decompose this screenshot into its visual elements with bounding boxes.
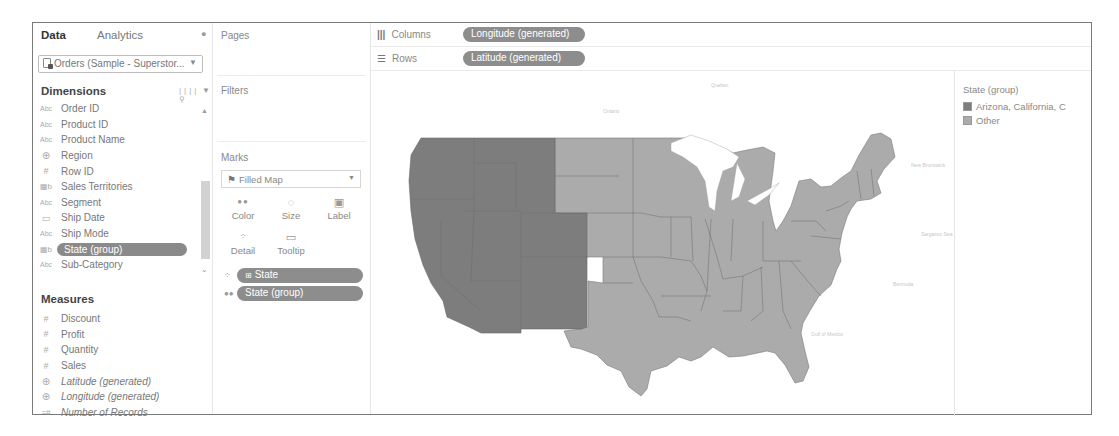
field-order-id[interactable]: AbcOrder ID — [33, 101, 201, 117]
chevron-down-icon: ▼ — [189, 58, 197, 67]
field-region[interactable]: ⊕Region — [33, 148, 201, 164]
dimensions-list: AbcOrder ID AbcProduct ID AbcProduct Nam… — [33, 101, 201, 273]
string-icon: Abc — [35, 105, 57, 112]
divider — [217, 75, 366, 76]
data-source-select[interactable]: Orders (Sample - Superstor... ▼ — [38, 55, 203, 73]
color-icon: ●● — [221, 194, 265, 210]
pages-card-title: Pages — [221, 30, 249, 41]
number-icon: # — [35, 166, 57, 176]
field-state-group[interactable]: ▦bState (group) — [33, 241, 201, 257]
calculated-number-icon: =# — [35, 408, 57, 417]
number-icon: # — [35, 329, 57, 339]
rows-shelf[interactable]: ☰Rows Latitude (generated) — [371, 47, 1091, 71]
us-filled-map[interactable]: Quebec Ontario New Brunswick Sargasso Se… — [371, 71, 955, 416]
columns-label: |||Columns — [377, 29, 431, 40]
field-quantity[interactable]: #Quantity — [33, 342, 201, 358]
field-ship-date[interactable]: ▭Ship Date — [33, 210, 201, 226]
basemap-label: Gulf of Mexico — [811, 331, 843, 337]
filled-map-icon: ⚑ — [227, 174, 236, 185]
globe-icon: ⊕ — [35, 150, 57, 161]
scroll-up-icon[interactable]: ▲ — [201, 107, 208, 114]
legend-item-group[interactable]: Arizona, California, C — [963, 101, 1066, 112]
state-detail-pill[interactable]: ⊞State — [237, 268, 363, 283]
mark-type-select[interactable]: ⚑Filled Map ▼ — [221, 170, 361, 188]
data-pane-tabs: Data Analytics ● — [33, 23, 213, 47]
tab-analytics[interactable]: Analytics — [97, 29, 143, 41]
tab-data[interactable]: Data — [41, 29, 66, 41]
color-legend: State (group) Arizona, California, C Oth… — [955, 71, 1091, 416]
string-icon: Abc — [35, 136, 57, 143]
data-source-label: Orders (Sample - Superstor... — [54, 58, 185, 69]
map-view[interactable]: Quebec Ontario New Brunswick Sargasso Se… — [371, 71, 955, 416]
dimensions-scrollbar[interactable] — [201, 181, 210, 259]
basemap-label: Quebec — [711, 82, 729, 88]
basemap-label: Ontario — [603, 108, 620, 114]
string-icon: Abc — [35, 199, 57, 206]
legend-title[interactable]: State (group) — [963, 84, 1018, 95]
field-product-id[interactable]: AbcProduct ID — [33, 117, 201, 133]
legend-swatch — [963, 116, 972, 125]
group-icon: ▦b — [35, 245, 57, 254]
columns-shelf[interactable]: |||Columns Longitude (generated) — [371, 23, 1091, 47]
field-number-of-records[interactable]: =#Number of Records — [33, 405, 201, 421]
plus-icon: ⊞ — [245, 271, 252, 280]
number-icon: # — [35, 361, 57, 371]
color-button[interactable]: ●●Color — [221, 194, 265, 228]
number-icon: # — [35, 314, 57, 324]
detail-button[interactable]: ⁘Detail — [221, 229, 265, 263]
tableau-workspace: Data Analytics ● Orders (Sample - Supers… — [32, 22, 1092, 415]
detail-encoding-icon: ⁘ — [224, 271, 231, 280]
color-encoding-icon: ●● — [224, 289, 234, 298]
columns-icon: ||| — [377, 29, 385, 40]
marks-card-title: Marks — [221, 152, 248, 163]
field-longitude-generated[interactable]: ⊕Longitude (generated) — [33, 389, 201, 405]
number-icon: # — [35, 345, 57, 355]
tooltip-icon: ▭ — [269, 229, 313, 245]
field-segment[interactable]: AbcSegment — [33, 195, 201, 211]
mark-type-label: Filled Map — [239, 174, 283, 185]
legend-swatch — [963, 102, 972, 111]
dimensions-menu-icon[interactable]: ▼ — [202, 86, 210, 95]
string-icon: Abc — [35, 230, 57, 237]
basemap-label: Sargasso Sea — [921, 231, 953, 237]
field-product-name[interactable]: AbcProduct Name — [33, 132, 201, 148]
field-ship-mode[interactable]: AbcShip Mode — [33, 226, 201, 242]
cards-pane: Pages Filters Marks ⚑Filled Map ▼ ●●Colo… — [213, 23, 371, 414]
string-icon: Abc — [35, 121, 57, 128]
globe-icon: ⊕ — [35, 391, 57, 402]
data-pane: Data Analytics ● Orders (Sample - Supers… — [33, 23, 213, 414]
scroll-down-icon[interactable]: ⌄ — [201, 265, 208, 274]
field-row-id[interactable]: #Row ID — [33, 163, 201, 179]
field-latitude-generated[interactable]: ⊕Latitude (generated) — [33, 373, 201, 389]
chevron-down-icon: ▼ — [348, 174, 355, 181]
field-discount[interactable]: #Discount — [33, 311, 201, 327]
field-sales[interactable]: #Sales — [33, 358, 201, 374]
minimize-icon[interactable]: ● — [201, 29, 206, 39]
label-icon: ▣ — [317, 194, 361, 210]
string-icon: Abc — [35, 261, 57, 268]
state-group-color-pill[interactable]: State (group) — [237, 286, 363, 301]
field-profit[interactable]: #Profit — [33, 327, 201, 343]
detail-icon: ⁘ — [221, 229, 265, 245]
dimensions-header: Dimensions — [41, 85, 106, 97]
divider — [217, 141, 366, 142]
filters-card-title: Filters — [221, 85, 248, 96]
longitude-pill[interactable]: Longitude (generated) — [463, 27, 585, 42]
size-button[interactable]: ◌Size — [269, 194, 313, 228]
measures-list: #Discount #Profit #Quantity #Sales ⊕Lati… — [33, 311, 201, 420]
latitude-pill[interactable]: Latitude (generated) — [463, 51, 585, 66]
label-button[interactable]: ▣Label — [317, 194, 361, 228]
measures-header: Measures — [41, 293, 94, 305]
database-icon — [43, 58, 51, 68]
legend-item-other[interactable]: Other — [963, 115, 1000, 126]
calendar-icon: ▭ — [35, 213, 57, 223]
basemap-label: Bermuda — [893, 281, 914, 287]
field-sub-category[interactable]: AbcSub-Category — [33, 257, 201, 273]
group-icon: ▦b — [35, 182, 57, 191]
field-sales-territories[interactable]: ▦bSales Territories — [33, 179, 201, 195]
basemap-label: New Brunswick — [911, 162, 946, 168]
globe-icon: ⊕ — [35, 376, 57, 387]
map-region-other[interactable] — [555, 133, 895, 396]
size-icon: ◌ — [269, 194, 313, 210]
tooltip-button[interactable]: ▭Tooltip — [269, 229, 313, 263]
